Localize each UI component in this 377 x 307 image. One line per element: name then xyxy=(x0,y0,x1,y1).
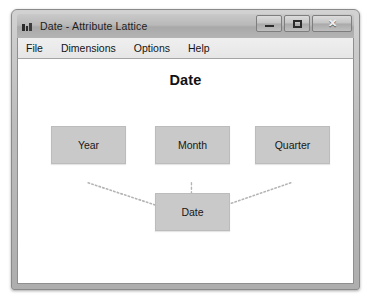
menu-item-file[interactable]: File xyxy=(26,41,52,56)
close-button[interactable]: ✕ xyxy=(312,15,352,32)
menu-item-help[interactable]: Help xyxy=(188,41,219,56)
lattice-canvas: Date Year Month Quarter Date xyxy=(17,59,354,284)
app-icon xyxy=(21,20,34,33)
window-title: Date - Attribute Lattice xyxy=(40,21,148,32)
close-icon: ✕ xyxy=(328,18,337,29)
node-label-year: Year xyxy=(78,139,99,151)
minimize-icon xyxy=(265,25,274,27)
node-label-date: Date xyxy=(181,206,203,218)
maximize-button[interactable] xyxy=(284,15,310,32)
lattice-node-year[interactable]: Year xyxy=(51,126,126,164)
screen: Date - Attribute Lattice ✕ File Dimensi xyxy=(0,0,377,307)
maximize-icon xyxy=(293,20,302,28)
minimize-button[interactable] xyxy=(256,15,282,32)
menu-bar: File Dimensions Options Help xyxy=(17,38,354,59)
menu-item-dimensions[interactable]: Dimensions xyxy=(61,41,125,56)
lattice-edges xyxy=(18,59,353,283)
lattice-node-quarter[interactable]: Quarter xyxy=(255,126,330,164)
window-controls: ✕ xyxy=(256,15,352,32)
lattice-node-month[interactable]: Month xyxy=(155,126,230,164)
application-window: Date - Attribute Lattice ✕ File Dimensi xyxy=(11,9,360,290)
menu-item-options[interactable]: Options xyxy=(134,41,179,56)
lattice-node-date[interactable]: Date xyxy=(155,193,230,231)
node-label-quarter: Quarter xyxy=(275,139,311,151)
title-bar[interactable]: Date - Attribute Lattice ✕ xyxy=(17,14,354,38)
node-label-month: Month xyxy=(178,139,207,151)
window-inner: Date - Attribute Lattice ✕ File Dimensi xyxy=(17,14,354,284)
